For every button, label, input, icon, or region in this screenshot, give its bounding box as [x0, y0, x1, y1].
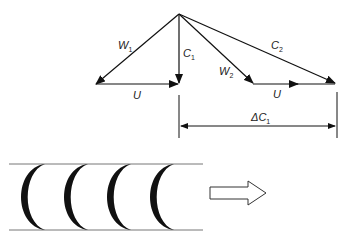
blade [64, 164, 88, 230]
blade [107, 164, 131, 230]
c2-vector [179, 14, 335, 83]
blade [21, 164, 45, 230]
u-right-label: U [273, 88, 281, 100]
delta-c-label: ΔC1 [250, 111, 270, 125]
w2-label: W2 [219, 65, 233, 79]
blade [150, 164, 174, 230]
delta-c-arrowhead-right [328, 123, 336, 129]
delta-c-arrowhead-left [180, 123, 188, 129]
c2-label: C2 [271, 39, 283, 53]
flow-direction-arrow-icon [210, 181, 266, 205]
w1-vector [96, 14, 179, 84]
velocity-diagram: W1 C1 W2 C2 U U ΔC1 [0, 0, 356, 245]
c1-label: C1 [183, 47, 195, 61]
w1-label: W1 [118, 39, 132, 53]
u-left-label: U [133, 89, 141, 101]
